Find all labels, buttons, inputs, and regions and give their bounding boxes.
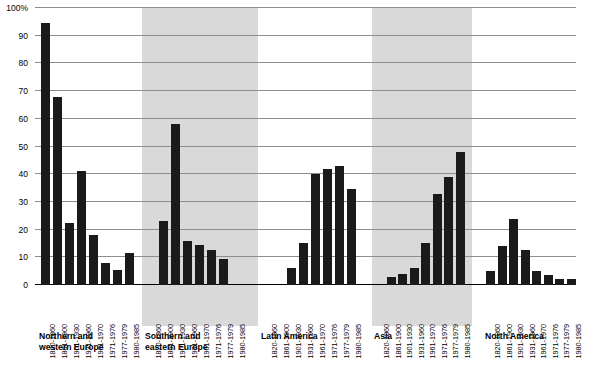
- bar: [421, 243, 430, 285]
- bar: [219, 259, 228, 285]
- bar-group-title: Asia: [374, 331, 392, 342]
- bar: [159, 221, 168, 285]
- bar-group: [39, 8, 135, 285]
- plot-area: [35, 8, 576, 285]
- bar: [498, 246, 507, 285]
- bar-group-title: Southern and eastern Europe: [145, 331, 208, 352]
- bar: [183, 241, 192, 285]
- bar: [77, 171, 86, 285]
- bar: [387, 277, 396, 285]
- bar: [65, 223, 74, 285]
- x-axis-tick-label: 1977-1979: [452, 324, 460, 358]
- y-axis-tick-label: 10: [19, 253, 28, 261]
- bar: [299, 243, 308, 285]
- x-axis-tick-label: 1977-1979: [563, 324, 571, 358]
- x-axis-tick-label: 1861-1900: [395, 324, 403, 358]
- bar: [335, 166, 344, 285]
- x-axis-tick-label: 1901-1930: [406, 324, 414, 358]
- bar-group-title: North America: [485, 331, 544, 342]
- y-axis-tick-label: 40: [19, 170, 28, 178]
- x-axis-tick-label: 1977-1979: [121, 324, 129, 358]
- bar: [532, 271, 541, 285]
- bar: [113, 270, 122, 285]
- bar: [41, 23, 50, 285]
- bar: [444, 177, 453, 285]
- y-axis-tick-label: 50: [19, 143, 28, 151]
- bar: [195, 245, 204, 285]
- x-axis-tick-label: 1980-1985: [575, 324, 583, 358]
- x-axis-tick-label: 1971-1976: [331, 324, 339, 358]
- y-axis-tick-label: 70: [19, 87, 28, 95]
- x-axis-tick-label: 1971-1976: [552, 324, 560, 358]
- x-axis-tick-label: 1977-1979: [343, 324, 351, 358]
- x-axis-tick-label: 1971-1976: [109, 324, 117, 358]
- bar: [521, 250, 530, 285]
- bar: [171, 124, 180, 285]
- bar-group-title: Northern and western Europe: [39, 331, 103, 352]
- bar: [53, 97, 62, 285]
- x-axis-tick-label: 1980-1985: [464, 324, 472, 358]
- bar: [486, 271, 495, 285]
- x-axis-tick-label: 1961-1970: [319, 324, 327, 358]
- bar: [287, 268, 296, 285]
- x-axis-tick-label: 1980-1985: [355, 324, 363, 358]
- x-axis-tick-label: 1977-1979: [227, 324, 235, 358]
- y-axis-tick-label: 100%: [6, 4, 28, 12]
- bar-group-title: Latin America: [261, 331, 318, 342]
- y-axis-tick-label: 0: [23, 281, 28, 289]
- bar-group: [261, 8, 357, 285]
- bar: [347, 189, 356, 285]
- x-axis-tick-label: 1971-1976: [441, 324, 449, 358]
- bar: [398, 274, 407, 285]
- y-axis-tick-label: 30: [19, 198, 28, 206]
- x-axis-tick-label: 1971-1976: [215, 324, 223, 358]
- bar-chart: 0102030405060708090100% 1820-18601861-19…: [0, 0, 590, 366]
- x-axis-tick-label: 1980-1985: [239, 324, 247, 358]
- y-axis-tick-label: 80: [19, 59, 28, 67]
- bar-group: [145, 8, 241, 285]
- bar-group: [374, 8, 466, 285]
- bar: [125, 253, 134, 285]
- bar-group: [485, 8, 577, 285]
- x-axis-tick-label: 1961-1970: [429, 324, 437, 358]
- bar: [207, 250, 216, 285]
- bar: [555, 279, 564, 285]
- x-axis-tick-label: 1980-1985: [133, 324, 141, 358]
- bar: [410, 268, 419, 285]
- bar: [433, 194, 442, 285]
- y-axis-labels: 0102030405060708090100%: [0, 8, 32, 285]
- bar: [89, 235, 98, 285]
- x-axis-tick-label: 1931-1960: [418, 324, 426, 358]
- bar: [311, 174, 320, 285]
- x-axis-category-labels: 1820-18601861-19001901-19301931-19601961…: [35, 287, 576, 327]
- bar: [544, 275, 553, 285]
- y-axis-tick-label: 60: [19, 115, 28, 123]
- y-axis-tick-label: 90: [19, 32, 28, 40]
- y-axis-tick-label: 20: [19, 226, 28, 234]
- bar: [509, 219, 518, 285]
- bar: [323, 169, 332, 285]
- bar: [456, 152, 465, 285]
- bar: [101, 263, 110, 285]
- bar: [567, 279, 576, 285]
